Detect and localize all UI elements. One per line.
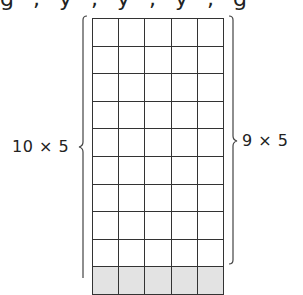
left-brace-icon <box>79 16 87 278</box>
left-brace-label: 10 × 5 <box>12 137 69 156</box>
right-brace-icon <box>229 16 237 264</box>
right-brace-label: 9 × 5 <box>242 131 288 150</box>
